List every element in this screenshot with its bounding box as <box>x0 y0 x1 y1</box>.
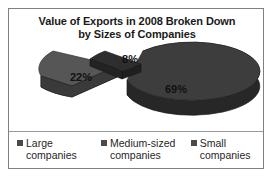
pie-slice-large-companies[interactable]: 69% <box>127 42 260 115</box>
chart-title: Value of Exports in 2008 Broken Down by … <box>9 15 265 41</box>
legend-swatch-square-icon <box>191 140 197 146</box>
legend-item-medium-sized-companies[interactable]: Medium-sized companies <box>101 137 191 161</box>
legend-swatch-square-icon <box>17 140 23 146</box>
pie-slice-medium-label: 22% <box>70 71 92 83</box>
chart-title-line-1: Value of Exports in 2008 Broken Down <box>9 15 265 28</box>
chart-legend: Large companies Medium-sized companies S… <box>9 131 263 168</box>
legend-item-small-companies[interactable]: Small companies <box>191 137 263 161</box>
pie-chart-svg: 69% 22% 8% <box>9 41 263 133</box>
chart-title-line-2: by Sizes of Companies <box>9 28 265 41</box>
legend-swatch-square-icon <box>101 140 107 146</box>
pie-slice-large-label: 69% <box>165 83 187 95</box>
pie-slice-large-top <box>127 42 260 100</box>
legend-item-label: Medium-sized companies <box>110 137 175 161</box>
pie-chart-plot-area: 69% 22% 8% <box>9 41 263 131</box>
legend-item-label: Small companies <box>200 137 251 161</box>
pie-slice-small-label: 8% <box>122 53 138 65</box>
chart-frame: Value of Exports in 2008 Broken Down by … <box>8 8 264 169</box>
legend-item-large-companies[interactable]: Large companies <box>9 137 101 161</box>
legend-item-label: Large companies <box>26 137 77 161</box>
